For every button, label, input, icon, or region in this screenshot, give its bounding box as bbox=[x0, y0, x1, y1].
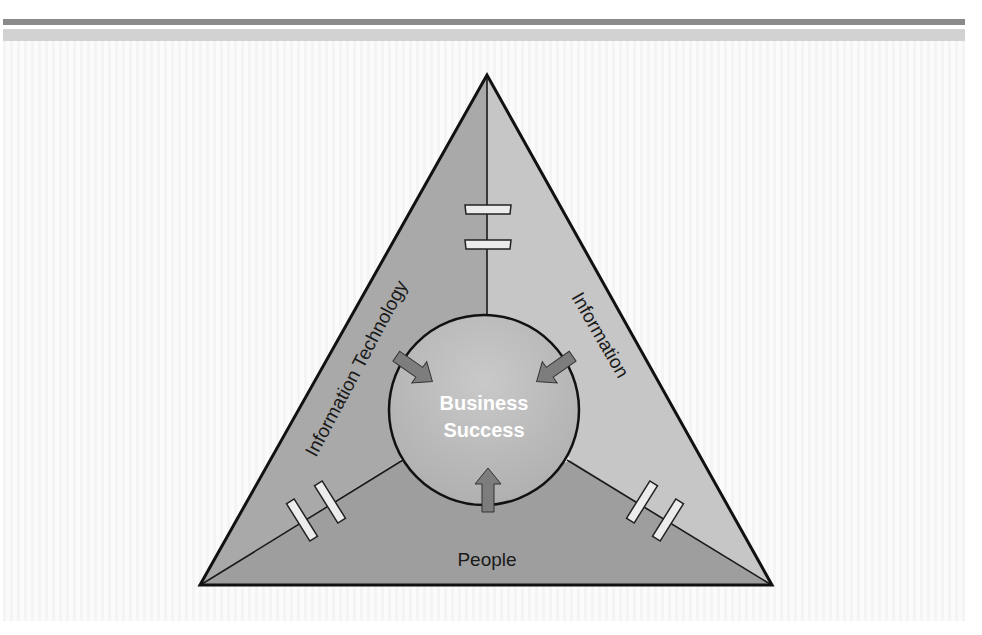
business-success-triangle-diagram: Business Success Information Technology … bbox=[0, 0, 982, 635]
center-label-success: Success bbox=[443, 419, 524, 441]
label-people: People bbox=[457, 549, 516, 570]
center-label-business: Business bbox=[440, 392, 529, 414]
